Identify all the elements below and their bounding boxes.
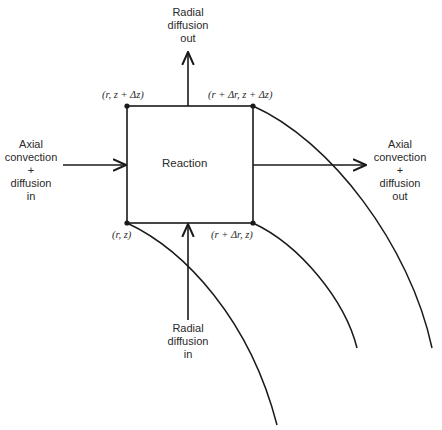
label-line: diffusion	[367, 177, 433, 190]
label-line: Radial	[158, 6, 218, 19]
label-axial-in: Axial convection + diffusion in	[0, 138, 62, 203]
label-line: out	[158, 32, 218, 45]
label-line: +	[367, 164, 433, 177]
corner-label-bottom-left: (r, z)	[112, 229, 131, 241]
label-radial-diffusion-in: Radial diffusion in	[158, 322, 218, 361]
label-line: diffusion	[158, 335, 218, 348]
label-line: in	[158, 348, 218, 361]
label-line: diffusion	[158, 19, 218, 32]
label-line: Radial	[158, 322, 218, 335]
label-line: in	[0, 190, 62, 203]
corner-dot-top-left	[124, 103, 129, 108]
corner-label-top-right: (r + Δr, z + Δz)	[208, 89, 272, 101]
curve-from-bottom-right	[253, 223, 357, 348]
corner-label-top-left: (r, z + Δz)	[102, 89, 144, 101]
diagram-canvas	[0, 0, 442, 430]
reaction-label: Reaction	[162, 157, 207, 169]
label-line: convection	[0, 151, 62, 164]
label-line: +	[0, 164, 62, 177]
label-line: diffusion	[0, 177, 62, 190]
label-line: Axial	[0, 138, 62, 151]
corner-label-bottom-right: (r + Δr, z)	[211, 229, 253, 241]
label-line: Axial	[367, 138, 433, 151]
label-line: convection	[367, 151, 433, 164]
label-line: out	[367, 190, 433, 203]
label-radial-diffusion-out: Radial diffusion out	[158, 6, 218, 45]
label-axial-out: Axial convection + diffusion out	[367, 138, 433, 203]
